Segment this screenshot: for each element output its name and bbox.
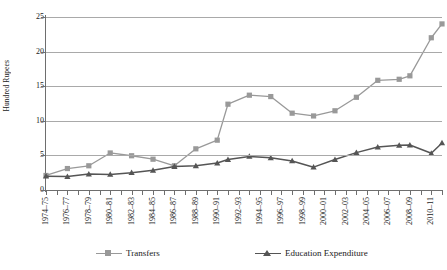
gridline [46,121,442,122]
data-point-marker [407,73,412,78]
data-point-marker [354,95,359,100]
data-point-marker [225,102,230,107]
x-tick-mark [281,191,282,195]
x-tick-mark [217,191,218,195]
x-tick-label: 2000–01 [320,197,328,225]
x-tick-label: 1990–91 [213,197,221,225]
x-tick-mark [367,191,368,195]
x-tick-label: 2008–09 [406,197,414,225]
x-tick-label: 2010–11 [427,197,435,225]
data-point-marker [268,94,273,99]
data-point-marker [150,157,155,162]
x-axis-line [45,190,443,191]
legend-item-education-expenditure[interactable]: Education Expenditure [255,248,368,258]
x-tick-mark [89,191,90,195]
x-tick-label: 2006–07 [384,197,392,225]
x-tick-mark [292,191,293,195]
x-tick-mark [260,191,261,195]
x-tick-mark [378,191,379,195]
x-tick-mark [164,191,165,195]
y-tick-mark [41,190,45,191]
data-point-marker [247,93,252,98]
gridline [46,86,442,87]
x-tick-mark [239,191,240,195]
data-point-marker [439,140,445,146]
y-tick-mark [41,121,45,122]
x-tick-mark [185,191,186,195]
x-tick-mark [100,191,101,195]
y-axis-tick-labels: 0510152025 [20,0,44,200]
data-point-marker [311,113,316,118]
x-tick-mark [153,191,154,195]
x-tick-mark [207,191,208,195]
x-tick-label: 1996–97 [277,197,285,225]
x-tick-mark [431,191,432,195]
chart-legend: Transfers Education Expenditure [0,246,447,264]
x-tick-mark [410,191,411,195]
x-tick-label: 1998–99 [299,197,307,225]
legend-label-education-expenditure: Education Expenditure [285,248,368,258]
x-tick-label: 1982–83 [128,197,136,225]
y-tick-mark [41,86,45,87]
x-tick-label: 2002–03 [342,197,350,225]
x-tick-mark [132,191,133,195]
x-tick-mark [78,191,79,195]
x-tick-mark [388,191,389,195]
x-tick-mark [271,191,272,195]
x-tick-mark [442,191,443,195]
x-tick-label: 1976–77 [63,197,71,225]
x-tick-mark [421,191,422,195]
data-point-marker [65,166,70,171]
data-point-marker [397,77,402,82]
x-tick-mark [303,191,304,195]
x-tick-mark [174,191,175,195]
plot-area [46,17,442,190]
legend-swatch-transfers [96,248,122,258]
data-point-marker [332,108,337,113]
x-tick-label: 1984–85 [149,197,157,225]
x-tick-mark [399,191,400,195]
data-point-marker [215,138,220,143]
line-chart: Hundred Rupees 0510152025 1974–751976–77… [0,0,447,270]
legend-label-transfers: Transfers [126,248,160,258]
x-tick-mark [57,191,58,195]
legend-swatch-education-expenditure [255,248,281,258]
series-line-transfers [46,24,442,176]
x-tick-mark [110,191,111,195]
data-point-marker [86,163,91,168]
x-tick-mark [121,191,122,195]
legend-item-transfers[interactable]: Transfers [96,248,160,258]
series-line-education-expenditure [46,143,442,177]
data-point-marker [375,78,380,83]
x-tick-mark [335,191,336,195]
gridline [46,52,442,53]
x-tick-label: 1974–75 [42,197,50,225]
x-tick-mark [356,191,357,195]
x-tick-label: 1988–89 [192,197,200,225]
y-axis-title: Hundred Rupees [2,60,16,112]
x-tick-label: 1978–79 [85,197,93,225]
y-tick-mark [41,155,45,156]
x-tick-mark [324,191,325,195]
y-tick-mark [41,17,45,18]
data-point-marker [439,21,444,26]
data-point-marker [193,146,198,151]
x-tick-label: 2004–05 [363,197,371,225]
x-tick-mark [67,191,68,195]
x-tick-mark [142,191,143,195]
data-point-marker [429,35,434,40]
x-tick-label: 1994–95 [256,197,264,225]
x-tick-label: 1992–93 [235,197,243,225]
x-tick-label: 1980–81 [106,197,114,225]
x-tick-label: 1986–87 [170,197,178,225]
gridline [46,17,442,18]
gridline [46,155,442,156]
data-point-marker [290,111,295,116]
x-tick-mark [346,191,347,195]
x-tick-mark [196,191,197,195]
x-tick-mark [228,191,229,195]
x-tick-mark [249,191,250,195]
y-tick-mark [41,52,45,53]
series-layer [46,17,442,190]
x-tick-mark [314,191,315,195]
